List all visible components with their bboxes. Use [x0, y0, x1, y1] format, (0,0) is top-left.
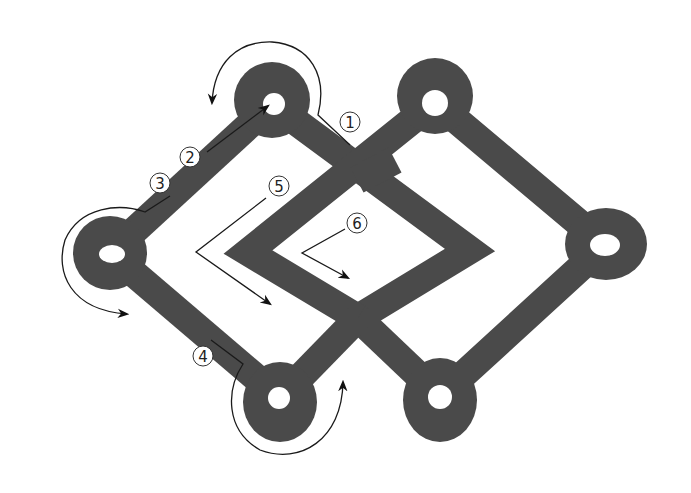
- svg-text:5: 5: [274, 178, 284, 196]
- knot-band: [110, 102, 605, 398]
- step-label-4: 4: [193, 346, 213, 366]
- bottom-right-loop-hole: [428, 385, 452, 409]
- svg-text:1: 1: [345, 114, 355, 132]
- svg-text:3: 3: [155, 175, 165, 193]
- step-label-5: 5: [269, 176, 289, 196]
- step-label-3: 3: [150, 173, 170, 193]
- top-right-loop-hole: [422, 90, 448, 116]
- step-label-2: 2: [180, 147, 200, 167]
- knot-diagram: 1 2 3 4 5 6: [0, 0, 691, 493]
- svg-text:4: 4: [198, 348, 208, 366]
- right-loop-hole: [590, 234, 620, 256]
- top-left-loop-hole: [263, 93, 285, 115]
- svg-text:6: 6: [352, 215, 362, 233]
- svg-text:2: 2: [185, 149, 195, 167]
- bottom-left-loop-hole: [268, 387, 290, 409]
- arrow-step-6: [302, 229, 348, 278]
- step-label-6: 6: [347, 213, 367, 233]
- left-loop-hole: [99, 245, 125, 263]
- loops: [73, 58, 647, 442]
- step-label-1: 1: [340, 112, 360, 132]
